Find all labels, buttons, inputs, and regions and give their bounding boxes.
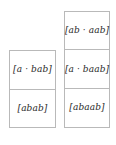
figure-canvas: [a · bab] [abab] [ab · aab] [a · baab] [… (0, 0, 116, 145)
left-stack: [a · bab] [abab] (9, 50, 56, 128)
term-label: [abab] (18, 104, 48, 113)
term-label: [a · bab] (13, 65, 52, 74)
right-stack: [ab · aab] [a · baab] [abaab] (64, 11, 110, 128)
term-label: [abaab] (69, 103, 104, 112)
left-stack-cell-2[interactable]: [abab] (10, 90, 55, 127)
right-stack-cell-1[interactable]: [ab · aab] (65, 12, 109, 50)
term-label: [ab · aab] (65, 26, 109, 35)
right-stack-cell-3[interactable]: [abaab] (65, 89, 109, 127)
term-label: [a · baab] (65, 65, 109, 74)
left-stack-cell-1[interactable]: [a · bab] (10, 51, 55, 90)
right-stack-cell-2[interactable]: [a · baab] (65, 50, 109, 88)
